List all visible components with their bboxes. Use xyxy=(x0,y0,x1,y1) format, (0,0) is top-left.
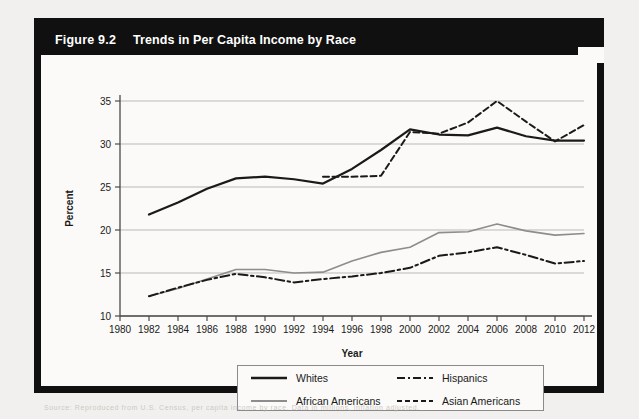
y-tick-label: 35 xyxy=(100,96,112,107)
x-tick-label: 2002 xyxy=(428,324,451,335)
legend-label-whites: Whites xyxy=(296,372,328,384)
line-chart: 101520253035 198019821984198619881990199… xyxy=(41,55,597,386)
x-tick-label: 2006 xyxy=(486,324,509,335)
y-tick-label: 25 xyxy=(100,182,112,193)
legend-item-whites[interactable]: Whites xyxy=(238,366,384,389)
x-tick-label: 1996 xyxy=(341,324,364,335)
legend-label-hispanics: Hispanics xyxy=(442,372,488,384)
y-tick-label: 15 xyxy=(100,268,112,279)
y-axis: 101520253035 xyxy=(100,95,120,322)
figure-number: Figure 9.2 xyxy=(55,33,116,47)
x-tick-label: 2008 xyxy=(515,324,538,335)
legend-label-asian-americans: Asian Americans xyxy=(442,395,520,407)
x-tick-label: 1988 xyxy=(225,324,248,335)
figure-title: Trends in Per Capita Income by Race xyxy=(133,33,356,47)
y-tick-label: 20 xyxy=(100,225,112,236)
x-tick-label: 1984 xyxy=(167,324,190,335)
data-series-group xyxy=(149,101,584,296)
y-tick-label: 30 xyxy=(100,139,112,150)
plot-area: 101520253035 198019821984198619881990199… xyxy=(41,55,597,386)
figure-frame: Figure 9.2 Trends in Per Capita Income b… xyxy=(34,18,604,393)
x-tick-label: 1994 xyxy=(312,324,335,335)
x-tick-label: 1992 xyxy=(283,324,306,335)
x-axis: 1980198219841986198819901992199419961998… xyxy=(109,316,596,335)
legend-key-hispanics xyxy=(396,372,434,384)
x-tick-label: 2000 xyxy=(399,324,422,335)
x-tick-label: 2004 xyxy=(457,324,480,335)
figure-header-bar: Figure 9.2 Trends in Per Capita Income b… xyxy=(41,25,597,55)
y-axis-label: Percent xyxy=(64,189,75,226)
series-line-whites xyxy=(149,128,584,215)
series-line-african-americans xyxy=(149,224,584,296)
x-tick-label: 2012 xyxy=(573,324,596,335)
x-tick-label: 1998 xyxy=(370,324,393,335)
y-tick-label: 10 xyxy=(100,311,112,322)
x-tick-label: 1980 xyxy=(109,324,132,335)
x-axis-label: Year xyxy=(341,348,362,359)
x-tick-label: 1986 xyxy=(196,324,219,335)
x-tick-label: 2010 xyxy=(544,324,567,335)
legend-key-whites xyxy=(250,372,288,384)
figure-source-note: Source: Reproduced from U.S. Census, per… xyxy=(44,404,420,411)
series-line-hispanics xyxy=(149,247,584,296)
legend-item-hispanics[interactable]: Hispanics xyxy=(384,366,545,389)
x-tick-label: 1982 xyxy=(138,324,161,335)
x-tick-label: 1990 xyxy=(254,324,277,335)
